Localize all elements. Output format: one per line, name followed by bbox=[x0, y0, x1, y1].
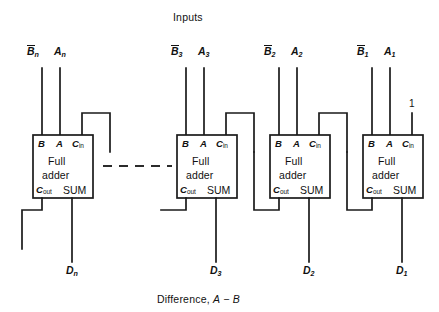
stage-n-pin-b: B bbox=[38, 139, 45, 149]
stage-3-cout-wire bbox=[161, 198, 186, 210]
stage-3-d-output-label: D3 bbox=[210, 265, 222, 278]
stage-1-pin-a: A bbox=[386, 139, 393, 149]
stage-2-d-output-label: D2 bbox=[303, 265, 315, 278]
stage-n-full-text: Full bbox=[48, 156, 65, 167]
stage-3-b-input-label: B3 bbox=[171, 45, 183, 59]
stage-n-pin-cin: Cin bbox=[72, 139, 84, 150]
stage-2-b-subscript: 2 bbox=[272, 51, 276, 59]
stage-2-pin-cout: Cout bbox=[273, 185, 289, 196]
stage-2-cout-letter: C bbox=[273, 184, 280, 195]
stage-3-cout-letter: C bbox=[180, 184, 187, 195]
stage-2-pin-cin: Cin bbox=[309, 139, 321, 150]
stage-3-a-subscript: 3 bbox=[206, 51, 210, 59]
stage-2-d-letter: D bbox=[303, 264, 311, 276]
stage-2-pin-b: B bbox=[275, 139, 282, 149]
stage-2-b-overbar: B bbox=[264, 45, 272, 57]
stage-n-pin-a: A bbox=[56, 139, 63, 149]
stage-3-full-text: Full bbox=[192, 156, 209, 167]
stage-3-pin-cin: Cin bbox=[216, 139, 228, 150]
stage-n-a-input-label: An bbox=[54, 46, 66, 59]
stage-2-d-subscript: 2 bbox=[311, 270, 315, 278]
stage-2-b-input-label: B2 bbox=[264, 45, 276, 59]
caption-operand-b: B bbox=[233, 293, 240, 305]
stage-1-cin-subscript: in bbox=[409, 142, 414, 149]
stage-2-adder-text: adder bbox=[279, 170, 306, 181]
stage-1-b-subscript: 1 bbox=[365, 51, 369, 59]
stage-n-pin-sum: SUM bbox=[63, 185, 86, 196]
stage-n-a-letter: A bbox=[54, 45, 62, 57]
stage-1-pin-sum: SUM bbox=[393, 185, 416, 196]
inputs-title: Inputs bbox=[173, 12, 203, 23]
stage-2-cin-subscript: in bbox=[316, 142, 321, 149]
stage-3-cin-subscript: in bbox=[223, 142, 228, 149]
stage-2-a-subscript: 2 bbox=[299, 51, 303, 59]
stage-1-a-letter: A bbox=[384, 45, 392, 57]
stage-n-d-letter: D bbox=[66, 264, 74, 276]
figure-caption: Difference, A − B bbox=[157, 294, 240, 305]
stage-1-adder-text: adder bbox=[372, 170, 399, 181]
stage-2-full-text: Full bbox=[285, 156, 302, 167]
carry-in-constant-label: 1 bbox=[409, 99, 415, 109]
stage-3-pin-cout: Cout bbox=[180, 185, 196, 196]
stage-n-b-input-label: Bn bbox=[27, 45, 39, 59]
stage-2-a-letter: A bbox=[291, 45, 299, 57]
stage-n-cout-letter: C bbox=[36, 184, 43, 195]
stage-n-cout-subscript: out bbox=[43, 188, 52, 195]
stage-1-pin-b: B bbox=[368, 139, 375, 149]
stage-2-cout-subscript: out bbox=[280, 188, 289, 195]
stage-3-pin-sum: SUM bbox=[207, 185, 230, 196]
stage-1-d-output-label: D1 bbox=[396, 265, 408, 278]
stage-n-b-subscript: n bbox=[35, 51, 39, 59]
stage-3-cin-letter: C bbox=[216, 138, 223, 149]
stage-1-b-input-label: B1 bbox=[357, 45, 369, 59]
stage-3-a-input-label: A3 bbox=[198, 46, 210, 59]
stage-2-a-input-label: A2 bbox=[291, 46, 303, 59]
stage-1-b-overbar: B bbox=[357, 45, 365, 57]
stage-3-b-subscript: 3 bbox=[179, 51, 183, 59]
stage-n-d-subscript: n bbox=[74, 270, 78, 278]
stage-1-pin-cout: Cout bbox=[366, 185, 382, 196]
stage-n-cin-letter: C bbox=[72, 138, 79, 149]
full-adder-subtractor-diagram: Inputs Bn An B A Cin Full adder Cout SUM… bbox=[0, 0, 439, 312]
stage-1-d-subscript: 1 bbox=[404, 270, 408, 278]
stage-n-b-overbar: B bbox=[27, 45, 35, 57]
stage-n-cout-wire bbox=[22, 198, 42, 249]
caption-prefix-text: Difference, bbox=[157, 293, 210, 305]
stage-1-a-input-label: A1 bbox=[384, 46, 396, 59]
stage-1-cout-letter: C bbox=[366, 184, 373, 195]
stage-n-group bbox=[22, 68, 110, 262]
stage-n-d-output-label: Dn bbox=[66, 265, 78, 278]
stage-n-a-subscript: n bbox=[62, 51, 66, 59]
stage-2-cin-letter: C bbox=[309, 138, 316, 149]
stage-3-d-letter: D bbox=[210, 264, 218, 276]
stage-n-pin-cout: Cout bbox=[36, 185, 52, 196]
stage-3-cout-subscript: out bbox=[187, 188, 196, 195]
stage-1-d-letter: D bbox=[396, 264, 404, 276]
stage-3-pin-b: B bbox=[182, 139, 189, 149]
stage-3-a-letter: A bbox=[198, 45, 206, 57]
stage-3-adder-text: adder bbox=[186, 170, 213, 181]
stage-1-cin-letter: C bbox=[402, 138, 409, 149]
stage-1-full-text: Full bbox=[378, 156, 395, 167]
stage-3-d-subscript: 3 bbox=[218, 270, 222, 278]
stage-3-pin-a: A bbox=[200, 139, 207, 149]
stage-n-adder-text: adder bbox=[42, 170, 69, 181]
stage-1-pin-cin: Cin bbox=[402, 139, 414, 150]
stage-n-cin-subscript: in bbox=[79, 142, 84, 149]
stage-2-pin-a: A bbox=[293, 139, 300, 149]
stage-3-b-overbar: B bbox=[171, 45, 179, 57]
stage-1-a-subscript: 1 bbox=[392, 51, 396, 59]
stage-2-pin-sum: SUM bbox=[300, 185, 323, 196]
stage-1-cout-subscript: out bbox=[373, 188, 382, 195]
